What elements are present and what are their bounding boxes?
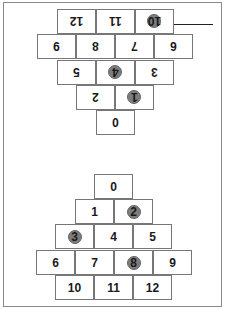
board-cell-8[interactable]: 8 (114, 250, 153, 275)
board-cell-3[interactable]: 3 (55, 224, 94, 249)
cell-number: 9 (169, 256, 176, 270)
cell-number: 0 (110, 180, 117, 194)
cell-number: 12 (146, 281, 159, 295)
cell-number: 6 (52, 256, 59, 270)
cell-number: 8 (130, 256, 137, 270)
board-cell-12[interactable]: 12 (133, 275, 172, 300)
cell-number: 1 (91, 205, 98, 219)
upright-board: 0123456789101112 (0, 0, 229, 309)
board-cell-6[interactable]: 6 (36, 250, 75, 275)
cell-number: 4 (110, 230, 117, 244)
cell-number: 2 (130, 205, 137, 219)
board-cell-5[interactable]: 5 (133, 224, 172, 249)
board-cell-0[interactable]: 0 (94, 174, 133, 199)
board-cell-9[interactable]: 9 (153, 250, 192, 275)
cell-number: 5 (149, 230, 156, 244)
board-cell-7[interactable]: 7 (75, 250, 114, 275)
cell-number: 10 (68, 281, 81, 295)
board-cell-11[interactable]: 11 (94, 275, 133, 300)
cell-number: 11 (107, 281, 120, 295)
board-cell-4[interactable]: 4 (94, 224, 133, 249)
board-cell-10[interactable]: 10 (55, 275, 94, 300)
board-cell-1[interactable]: 1 (75, 199, 114, 224)
cell-number: 3 (71, 230, 78, 244)
board-cell-2[interactable]: 2 (114, 199, 153, 224)
cell-number: 7 (91, 256, 98, 270)
